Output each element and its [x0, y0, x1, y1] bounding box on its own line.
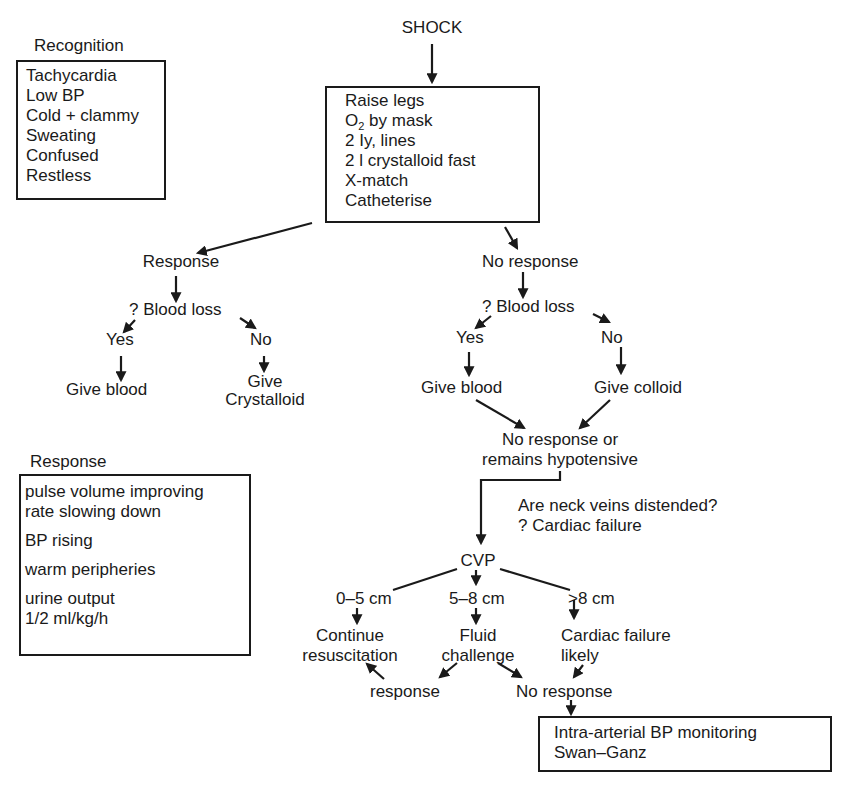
- left-give-blood: Give blood: [66, 380, 147, 400]
- cardiac-line-2: likely: [561, 646, 599, 666]
- cvp-response: response: [370, 682, 440, 702]
- management-item: 2 l crystalloid fast: [345, 151, 538, 171]
- fluid-line-1: Fluid: [430, 626, 526, 646]
- left-give-crystalloid-2: Crystalloid: [214, 390, 316, 410]
- management-item: X-match: [345, 171, 538, 191]
- monitoring-box: Intra-arterial BP monitoring Swan–Ganz: [538, 716, 832, 772]
- initial-management-box: Raise legs O2 by mask 2 Iy, lines 2 l cr…: [325, 86, 540, 223]
- title-shock: SHOCK: [390, 18, 474, 38]
- management-item: O2 by mask: [345, 111, 538, 131]
- cardiac-failure-question: ? Cardiac failure: [518, 516, 642, 536]
- right-yes: Yes: [456, 328, 484, 348]
- recognition-item: Tachycardia: [26, 66, 164, 86]
- response-item: BP rising: [25, 531, 249, 551]
- left-yes: Yes: [106, 330, 134, 350]
- cvp-label: CVP: [456, 551, 500, 571]
- recognition-item: Sweating: [26, 126, 164, 146]
- neck-veins-question: Are neck veins distended?: [518, 496, 717, 516]
- management-item: 2 Iy, lines: [345, 131, 538, 151]
- recognition-item: Confused: [26, 146, 164, 166]
- right-give-blood: Give blood: [421, 378, 502, 398]
- left-response: Response: [126, 252, 236, 272]
- response-item: warm peripheries: [25, 560, 249, 580]
- recognition-item: Restless: [26, 166, 164, 186]
- monitoring-item: Intra-arterial BP monitoring: [554, 723, 830, 743]
- response-heading: Response: [30, 452, 107, 472]
- management-item: Catheterise: [345, 191, 538, 211]
- response-item: pulse volume improving: [25, 482, 249, 502]
- right-blood-loss-question: ? Blood loss: [482, 297, 575, 317]
- outcome-line-2: remains hypotensive: [460, 450, 660, 470]
- response-item: urine output: [25, 589, 249, 609]
- left-no: No: [250, 330, 272, 350]
- response-item: rate slowing down: [25, 502, 249, 522]
- left-give-crystalloid-1: Give: [214, 372, 316, 392]
- recognition-item: Cold + clammy: [26, 106, 164, 126]
- right-no: No: [601, 328, 623, 348]
- recognition-heading: Recognition: [34, 36, 124, 56]
- right-no-response: No response: [482, 252, 578, 272]
- management-item: Raise legs: [345, 91, 538, 111]
- monitoring-item: Swan–Ganz: [554, 743, 830, 763]
- cvp-no-response: No response: [516, 682, 612, 702]
- right-give-colloid: Give colloid: [594, 378, 682, 398]
- response-item: 1/2 ml/kg/h: [25, 609, 249, 629]
- recognition-box: Tachycardia Low BP Cold + clammy Sweatin…: [16, 60, 166, 200]
- cvp-low-range: 0–5 cm: [336, 589, 392, 609]
- continue-line-2: resuscitation: [290, 646, 410, 666]
- fluid-line-2: challenge: [430, 646, 526, 666]
- outcome-line-1: No response or: [460, 430, 660, 450]
- recognition-item: Low BP: [26, 86, 164, 106]
- left-blood-loss-question: ? Blood loss: [129, 300, 222, 320]
- response-box: pulse volume improving rate slowing down…: [19, 474, 251, 656]
- cardiac-line-1: Cardiac failure: [561, 626, 671, 646]
- cvp-mid-range: 5–8 cm: [449, 589, 505, 609]
- continue-line-1: Continue: [290, 626, 410, 646]
- cvp-high-range: >8 cm: [568, 589, 615, 609]
